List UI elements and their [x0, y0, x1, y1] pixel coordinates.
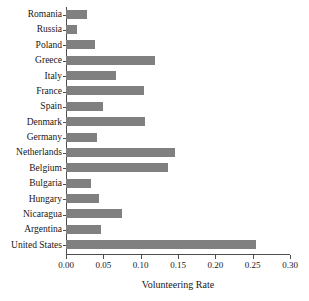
x-axis-tick-label: 0.30 — [282, 260, 298, 270]
bar-row — [66, 207, 290, 221]
volunteering-rate-bar-chart: RomaniaRussiaPolandGreeceItalyFranceSpai… — [0, 0, 309, 301]
bar — [66, 86, 144, 95]
x-axis-tick-label: 0.25 — [245, 260, 261, 270]
y-axis-label-nicaragua: Nicaragua — [0, 207, 62, 222]
y-axis-label-france: France — [0, 84, 62, 99]
y-axis-label-belgium: Belgium — [0, 161, 62, 176]
x-axis-tick — [141, 255, 142, 259]
bar — [66, 40, 95, 49]
y-axis-tick — [63, 15, 66, 16]
bar-row — [66, 22, 290, 36]
y-axis-label-hungary: Hungary — [0, 192, 62, 207]
bar-row — [66, 161, 290, 175]
bar — [66, 240, 256, 249]
bar-row — [66, 115, 290, 129]
y-axis-tick — [63, 30, 66, 31]
x-axis-tick — [253, 255, 254, 259]
bar — [66, 71, 116, 80]
bar — [66, 102, 103, 111]
x-axis-tick-label: 0.00 — [58, 260, 74, 270]
x-axis-tick-label: 0.05 — [95, 260, 111, 270]
bar — [66, 117, 145, 126]
bar-row — [66, 84, 290, 98]
y-axis-label-denmark: Denmark — [0, 115, 62, 130]
bar-row — [66, 145, 290, 159]
bar — [66, 209, 122, 218]
bar-row — [66, 176, 290, 190]
bar-row — [66, 38, 290, 52]
bar — [66, 225, 101, 234]
bar-row — [66, 130, 290, 144]
y-axis-tick — [63, 184, 66, 185]
y-axis-tick — [63, 45, 66, 46]
y-axis-label-russia: Russia — [0, 22, 62, 37]
y-axis-tick — [63, 107, 66, 108]
y-axis-tick — [63, 76, 66, 77]
x-axis-tick — [66, 255, 67, 259]
y-axis-label-greece: Greece — [0, 53, 62, 68]
x-axis-title: Volunteering Rate — [66, 279, 290, 290]
bar-row — [66, 53, 290, 67]
x-axis-tick — [290, 255, 291, 259]
y-axis-label-spain: Spain — [0, 99, 62, 114]
x-axis-tick-label: 0.10 — [133, 260, 149, 270]
bar — [66, 133, 97, 142]
bar — [66, 148, 175, 157]
x-axis-tick — [178, 255, 179, 259]
y-axis-label-germany: Germany — [0, 130, 62, 145]
x-axis-tick-label: 0.20 — [207, 260, 223, 270]
bar-row — [66, 7, 290, 21]
y-axis-label-italy: Italy — [0, 69, 62, 84]
bar-row — [66, 69, 290, 83]
bar-row — [66, 99, 290, 113]
y-axis-label-poland: Poland — [0, 38, 62, 53]
bar-row — [66, 192, 290, 206]
bar — [66, 56, 155, 65]
y-axis-tick — [63, 92, 66, 93]
bar-row — [66, 238, 290, 252]
y-axis-tick — [63, 122, 66, 123]
y-axis-label-romania: Romania — [0, 7, 62, 22]
bar — [66, 163, 168, 172]
y-axis-label-united-states: United States — [0, 238, 62, 253]
y-axis-tick — [63, 199, 66, 200]
bar — [66, 179, 91, 188]
plot-area — [66, 7, 290, 253]
x-axis-tick-labels: 0.000.050.100.150.200.250.30 — [0, 260, 309, 274]
bar-row — [66, 222, 290, 236]
y-axis-tick — [63, 230, 66, 231]
y-axis-tick — [63, 153, 66, 154]
y-axis-label-argentina: Argentina — [0, 222, 62, 237]
y-axis-tick — [63, 168, 66, 169]
x-axis-tick — [103, 255, 104, 259]
y-axis-label-netherlands: Netherlands — [0, 145, 62, 160]
y-axis-label-bulgaria: Bulgaria — [0, 176, 62, 191]
y-axis-tick — [63, 215, 66, 216]
bar — [66, 194, 99, 203]
y-axis-category-labels: RomaniaRussiaPolandGreeceItalyFranceSpai… — [0, 7, 62, 254]
x-axis-tick — [215, 255, 216, 259]
y-axis-tick — [63, 61, 66, 62]
y-axis-tick — [63, 245, 66, 246]
y-axis-tick — [63, 138, 66, 139]
x-axis-tick-label: 0.15 — [170, 260, 186, 270]
bar — [66, 10, 87, 19]
bar — [66, 25, 77, 34]
